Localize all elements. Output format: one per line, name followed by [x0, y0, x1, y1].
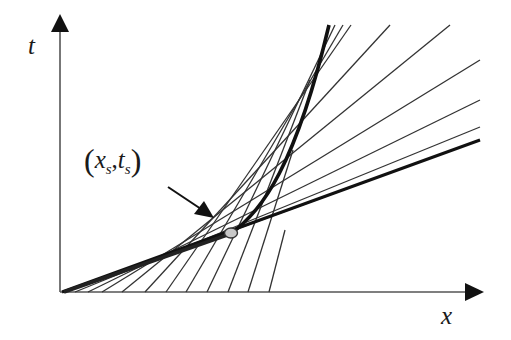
close-paren: ) — [131, 142, 142, 178]
point-label: (xs,ts) — [84, 142, 141, 179]
x-axis-label: x — [441, 302, 452, 330]
pointer-arrow-shaft — [168, 187, 204, 211]
characteristic-line — [207, 25, 335, 292]
t-axis-arrowhead-icon — [51, 14, 69, 32]
point-var-x: x — [95, 146, 106, 173]
t-axis-label: t — [28, 32, 35, 60]
characteristic-line — [269, 230, 285, 292]
point-xs-ts — [225, 228, 238, 238]
pointer-arrowhead-icon — [194, 201, 214, 218]
envelope-curve — [230, 25, 329, 234]
characteristics-diagram — [0, 0, 511, 340]
envelope-lower-bundle — [64, 234, 230, 292]
open-paren: ( — [84, 142, 95, 178]
point-var-t: t — [118, 146, 125, 173]
characteristic-line — [166, 25, 351, 292]
characteristic-line — [228, 80, 310, 292]
x-axis-arrowhead-icon — [465, 283, 484, 301]
